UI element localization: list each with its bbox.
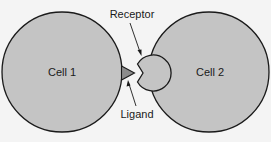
cell-2-label: Cell 2 bbox=[196, 66, 224, 78]
cell-signaling-diagram: Cell 1 Cell 2 Receptor Ligand bbox=[0, 0, 271, 142]
ligand-pointer-line bbox=[129, 84, 136, 106]
receptor-pointer-line bbox=[130, 23, 140, 52]
receptor-shape bbox=[138, 55, 172, 91]
ligand-label: Ligand bbox=[120, 108, 153, 120]
ligand-shape bbox=[122, 66, 135, 80]
receptor-label: Receptor bbox=[110, 8, 155, 20]
cell-1-label: Cell 1 bbox=[48, 66, 76, 78]
diagram-svg: Cell 1 Cell 2 Receptor Ligand bbox=[0, 0, 271, 142]
receptor-arrowhead-icon bbox=[138, 50, 142, 57]
ligand-arrowhead-icon bbox=[127, 80, 131, 87]
